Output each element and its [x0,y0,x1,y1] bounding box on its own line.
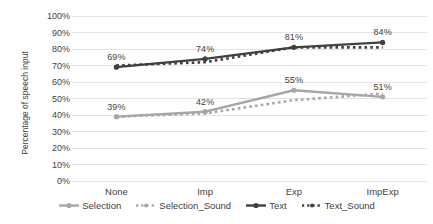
legend-swatch-icon [58,201,80,210]
data-point [380,40,385,45]
legend-swatch-icon [301,201,323,210]
data-label: 84% [374,27,392,37]
series-line-selection_sound [116,94,382,117]
line-chart: Percentage of speech input 0%10%20%30%40… [0,0,433,224]
legend-item-selection_sound[interactable]: Selection_Sound [135,200,231,211]
legend-item-text_sound[interactable]: Text_Sound [301,200,375,211]
x-axis-tick-label: ImpExp [367,186,399,197]
series-line-selection [116,90,382,116]
data-label: 74% [196,44,214,54]
data-label: 51% [374,82,392,92]
legend-label: Selection [82,200,121,211]
legend-swatch-icon [245,201,267,210]
x-axis-tick-label: Imp [197,186,213,197]
legend-label: Text_Sound [325,200,375,211]
legend-label: Selection_Sound [159,200,231,211]
data-label: 39% [107,102,125,112]
data-point [203,56,208,61]
legend-swatch-icon [135,201,157,210]
legend-item-text[interactable]: Text [245,200,286,211]
legend-item-selection[interactable]: Selection [58,200,121,211]
x-axis-tick-label: Exp [286,186,302,197]
legend-label: Text [269,200,286,211]
data-point [291,88,296,93]
chart-legend: SelectionSelection_SoundTextText_Sound [0,200,433,211]
x-axis-tick-label: None [105,186,128,197]
data-label: 69% [107,52,125,62]
data-point [380,94,385,99]
data-label: 55% [285,75,303,85]
data-label: 42% [196,97,214,107]
data-label: 81% [285,32,303,42]
